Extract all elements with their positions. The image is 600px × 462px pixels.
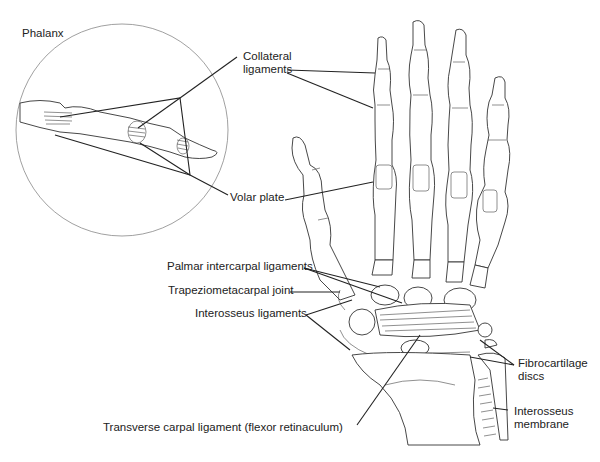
label-collateral-ligaments: Collateral ligaments xyxy=(243,50,292,76)
fingers xyxy=(292,21,510,300)
label-interosseus-membrane-line1: Interosseus xyxy=(514,405,573,418)
label-interosseus-membrane: Interosseus membrane xyxy=(514,405,573,431)
label-volar-plate: Volar plate xyxy=(230,191,284,204)
label-collateral-line2: ligaments xyxy=(243,63,292,76)
label-interosseus-membrane-line2: membrane xyxy=(514,418,573,431)
label-fibrocartilage-line2: discs xyxy=(518,370,588,383)
label-palmar-intercarpal-ligaments: Palmar intercarpal ligaments xyxy=(167,260,313,273)
wrist-and-forearm xyxy=(338,260,508,445)
label-fibrocartilage-line1: Fibrocartilage xyxy=(518,357,588,370)
label-phalanx: Phalanx xyxy=(22,27,64,40)
label-interosseus-ligaments: Interosseus ligaments xyxy=(195,307,307,320)
phalanx-inset xyxy=(16,24,228,236)
hand-ligament-diagram xyxy=(0,0,600,462)
label-collateral-line1: Collateral xyxy=(243,50,292,63)
label-transverse-carpal-ligament: Transverse carpal ligament (flexor retin… xyxy=(103,421,343,434)
label-fibrocartilage-discs: Fibrocartilage discs xyxy=(518,357,588,383)
label-trapeziometacarpal-joint: Trapeziometacarpal joint xyxy=(168,284,294,297)
